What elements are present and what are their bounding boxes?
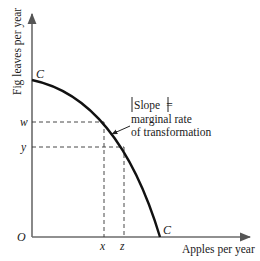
tick-label-w: w xyxy=(20,116,28,128)
equals-sign: = xyxy=(166,99,173,111)
annotation-arrow xyxy=(112,126,130,134)
ppf-diagram: Fig leaves per year Apples per year O C … xyxy=(0,0,260,261)
slope-text: Slope xyxy=(134,99,160,112)
annotation-line3: of transformation xyxy=(131,126,211,138)
tick-label-z: z xyxy=(119,240,125,252)
tick-label-x: x xyxy=(99,240,106,252)
y-axis-label: Fig leaves per year xyxy=(11,8,24,95)
dashed-guides xyxy=(32,122,124,237)
tick-label-y: y xyxy=(20,141,27,154)
curve-label-bottom: C xyxy=(163,223,172,237)
origin-label: O xyxy=(17,230,26,244)
x-axis-label: Apples per year xyxy=(182,243,255,256)
annotation-line1: Slope= xyxy=(134,99,173,112)
annotation-line2: marginal rate xyxy=(131,113,192,126)
curve-label-top: C xyxy=(36,67,45,81)
